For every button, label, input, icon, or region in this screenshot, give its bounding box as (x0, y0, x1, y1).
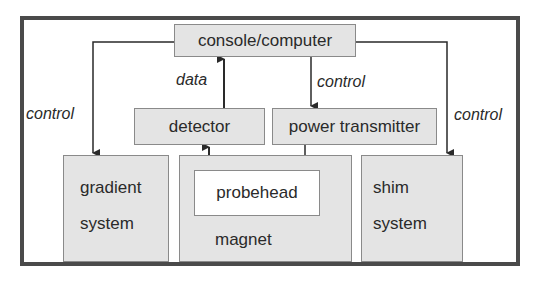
control-center-edge-label: control (317, 73, 365, 91)
detector-label: detector (169, 117, 230, 137)
power-transmitter-label: power transmitter (289, 117, 420, 137)
shim-label-line1: shim (373, 178, 409, 198)
control-right-edge-label: control (454, 106, 502, 124)
gradient-label-line1: gradient (80, 178, 141, 198)
probehead-node: probehead (194, 170, 320, 216)
magnet-label: magnet (215, 230, 272, 250)
data-edge-label: data (176, 71, 207, 89)
shim-label-line2: system (373, 214, 427, 234)
shim-system-node: shim system (361, 155, 463, 262)
console-computer-node: console/computer (174, 24, 356, 57)
gradient-system-node: gradient system (63, 155, 169, 262)
power-transmitter-node: power transmitter (272, 108, 437, 145)
probehead-label: probehead (216, 183, 297, 203)
console-label: console/computer (198, 31, 332, 51)
gradient-label-line2: system (80, 214, 134, 234)
control-left-edge-label: control (26, 105, 74, 123)
detector-node: detector (134, 108, 265, 145)
